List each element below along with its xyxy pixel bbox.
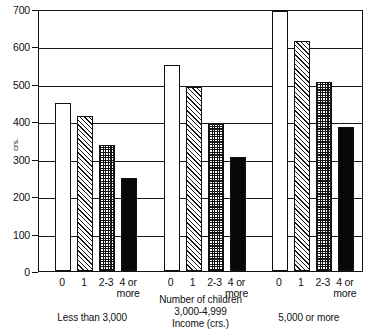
bar — [316, 82, 332, 271]
y-axis-tick-labels: 0100200300400500600700 — [0, 0, 30, 335]
group-caption: 3,000-4,999 — [138, 306, 262, 318]
y-tick-label: 100 — [2, 229, 30, 241]
bar — [55, 103, 71, 271]
bar — [272, 11, 288, 271]
bar — [186, 87, 202, 271]
y-tick-label: 600 — [2, 41, 30, 53]
y-tick-mark — [32, 10, 38, 11]
y-tick-label: 200 — [2, 191, 30, 203]
bar — [294, 41, 310, 271]
bar — [164, 65, 180, 271]
bar — [338, 127, 354, 271]
y-tick-label: 500 — [2, 79, 30, 91]
y-tick-mark — [32, 235, 38, 236]
bar — [99, 145, 115, 271]
y-tick-label: 0 — [2, 266, 30, 278]
bar — [230, 157, 246, 271]
bar — [121, 178, 137, 271]
bar-chart-figure: crs. 0100200300400500600700 012-34 ormor… — [0, 0, 378, 335]
y-tick-mark — [32, 47, 38, 48]
y-tick-label: 300 — [2, 154, 30, 166]
y-tick-mark — [32, 160, 38, 161]
x-tick-label: 4 ormore — [324, 277, 366, 299]
y-tick-mark — [32, 197, 38, 198]
bar — [77, 116, 93, 271]
y-tick-mark — [32, 272, 38, 273]
y-tick-label: 400 — [2, 116, 30, 128]
y-tick-mark — [32, 122, 38, 123]
plot-area — [38, 10, 363, 272]
gridline — [39, 48, 362, 49]
bar — [208, 124, 224, 271]
x-axis-units: Income (crs.) — [131, 318, 271, 330]
x-axis-title: Number of children — [131, 294, 271, 306]
y-tick-label: 700 — [2, 4, 30, 16]
y-tick-mark — [32, 85, 38, 86]
